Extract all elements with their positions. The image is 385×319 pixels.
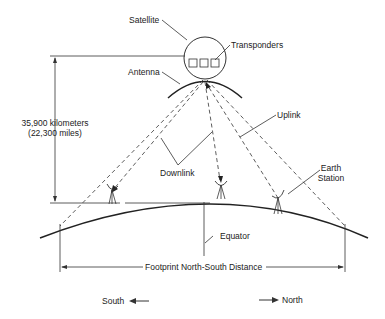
- equator-label: Equator: [220, 231, 250, 241]
- uplink-beam: [208, 86, 278, 198]
- uplink-leader: [240, 115, 276, 137]
- distance-mi-label: (22,300 miles): [20, 128, 90, 138]
- earth-station-label-line1: Earth: [316, 163, 346, 173]
- south-label: South: [102, 296, 124, 306]
- uplink-label: Uplink: [277, 110, 301, 120]
- downlink-arrow-center: [218, 176, 223, 183]
- north-arrow-head: [272, 297, 279, 303]
- satellite-leader: [162, 20, 187, 40]
- distance-km-label: 35,900 kilometers: [20, 118, 90, 128]
- footprint-arrow-right: [338, 265, 344, 269]
- footprint-label: Footprint North-South Distance: [145, 262, 262, 272]
- footprint-beam-south: [60, 80, 203, 226]
- antenna-leader: [162, 72, 180, 84]
- satellite-body: [184, 37, 226, 79]
- earth-station-label-line2: Station: [316, 173, 346, 183]
- downlink-leader: [161, 132, 212, 165]
- transponders-label: Transponders: [231, 40, 283, 50]
- north-label: North: [282, 295, 303, 305]
- downlink-beam-center: [205, 82, 220, 180]
- height-arrow-bottom: [53, 196, 57, 202]
- equator-leader: [205, 236, 213, 243]
- earth-station-center: [215, 181, 227, 199]
- south-arrow-head: [129, 298, 136, 304]
- antenna-label: Antenna: [128, 67, 160, 77]
- downlink-label: Downlink: [160, 168, 195, 178]
- footprint-arrow-left: [61, 265, 67, 269]
- height-arrow-top: [53, 57, 57, 63]
- uplink-arrow: [206, 82, 211, 89]
- satellite-label: Satellite: [129, 15, 159, 25]
